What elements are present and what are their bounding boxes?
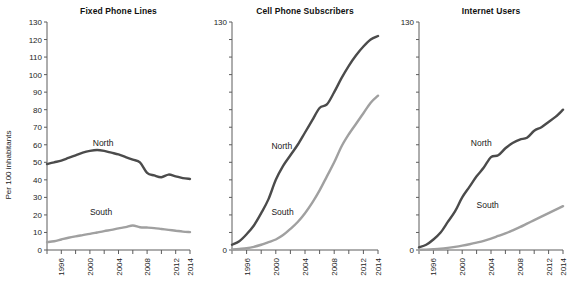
- y-tick-label: 90: [33, 88, 42, 97]
- x-tick-label: 2012: [545, 257, 554, 275]
- series-line-north: [419, 110, 563, 248]
- panel-title: Cell Phone Subscribers: [256, 6, 354, 16]
- x-tick-label: 2008: [330, 257, 339, 275]
- multi-panel-line-chart-figure: Per 100 inhabitants Fixed Phone Lines010…: [0, 0, 573, 298]
- chart-panel-1: Fixed Phone Lines01020304050607080901001…: [29, 6, 195, 276]
- y-tick-label: 70: [33, 123, 42, 132]
- series-label-north: North: [271, 141, 292, 151]
- y-tick-label: 40: [33, 176, 42, 185]
- x-tick-label: 2012: [359, 257, 368, 275]
- x-tick-label: 2014: [559, 257, 568, 275]
- x-tick-label: 2004: [115, 257, 124, 275]
- y-tick-label: 20: [33, 211, 42, 220]
- panels-group: Fixed Phone Lines01020304050607080901001…: [29, 6, 568, 276]
- y-tick-label: 100: [29, 71, 43, 80]
- panel-title: Fixed Phone Lines: [80, 6, 157, 16]
- y-tick-label: 10: [33, 228, 42, 237]
- series-label-south: South: [271, 207, 293, 217]
- x-tick-label: 2004: [487, 257, 496, 275]
- y-axis-title: Per 100 inhabitants: [4, 131, 13, 200]
- x-tick-label: 2014: [374, 257, 383, 275]
- y-tick-label: 130: [29, 18, 43, 27]
- series-label-north: North: [471, 138, 492, 148]
- x-tick-label: 1996: [57, 257, 66, 275]
- y-tick-label: 0: [410, 246, 415, 255]
- series-label-south: South: [90, 207, 112, 217]
- series-line-south: [47, 225, 190, 242]
- x-tick-label: 2012: [172, 257, 181, 275]
- x-tick-label: 2014: [186, 257, 195, 275]
- x-tick-label: 1996: [243, 257, 252, 275]
- series-label-north: North: [93, 138, 114, 148]
- y-tick-label: 0: [223, 246, 228, 255]
- x-tick-label: 2008: [143, 257, 152, 275]
- series-line-south: [419, 206, 563, 250]
- y-tick-label: 30: [33, 193, 42, 202]
- x-tick-label: 2004: [301, 257, 310, 275]
- series-line-north: [47, 150, 190, 179]
- y-tick-label: 50: [33, 158, 42, 167]
- y-tick-label: 0: [38, 246, 43, 255]
- y-tick-label: 60: [33, 141, 42, 150]
- x-tick-label: 2000: [86, 257, 95, 275]
- chart-panel-3: Internet Users01301996200020042008201220…: [401, 6, 568, 276]
- chart-panel-2: Cell Phone Subscribers013019962000200420…: [214, 6, 383, 276]
- x-tick-label: 2000: [272, 257, 281, 275]
- series-label-south: South: [477, 200, 499, 210]
- panel-title: Internet Users: [462, 6, 521, 16]
- y-tick-label: 110: [29, 53, 42, 62]
- y-tick-label: 130: [401, 18, 415, 27]
- x-tick-label: 2000: [458, 257, 467, 275]
- y-tick-label: 120: [29, 36, 43, 45]
- x-tick-label: 2008: [516, 257, 525, 275]
- y-tick-label: 80: [33, 106, 42, 115]
- y-tick-label: 130: [214, 18, 228, 27]
- x-tick-label: 1996: [429, 257, 438, 275]
